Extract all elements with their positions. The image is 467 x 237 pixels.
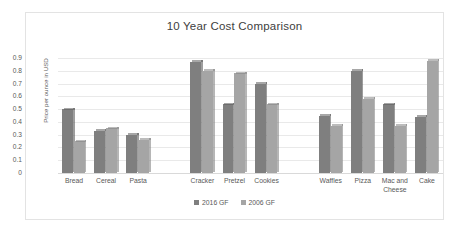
bar-2006-gf[interactable] — [234, 73, 245, 173]
bar-2006-gf[interactable] — [363, 99, 374, 173]
bar-top-shade — [128, 133, 139, 135]
bar-2016-gf[interactable] — [319, 116, 330, 174]
bar-side-shade — [374, 97, 376, 171]
bar-face — [202, 71, 213, 173]
bar-top-shade — [192, 60, 203, 62]
bar-2016-gf[interactable] — [126, 135, 137, 173]
bar-2016-gf[interactable] — [255, 84, 266, 173]
bar-group — [90, 58, 122, 173]
bar-top-shade — [396, 124, 407, 126]
bar-2016-gf[interactable] — [415, 117, 426, 173]
legend-item[interactable]: 2016 GF — [194, 199, 228, 206]
x-axis-category-label: Pasta — [114, 176, 162, 185]
bar-top-shade — [108, 127, 119, 129]
bar-face — [190, 62, 201, 173]
bar-side-shade — [117, 127, 119, 172]
bar-side-shade — [85, 140, 87, 172]
bar-top-shade — [236, 72, 247, 74]
bar-2016-gf[interactable] — [383, 104, 394, 173]
x-axis-category-label: Cookies — [242, 176, 290, 185]
bar-face — [395, 126, 406, 173]
y-axis-tick-label: 0.9 — [13, 55, 22, 62]
bar-2006-gf[interactable] — [202, 71, 213, 173]
legend-item[interactable]: 2006 GF — [241, 199, 275, 206]
bar-group — [411, 58, 443, 173]
chart-legend: 2016 GF2006 GF — [26, 199, 443, 206]
bar-series-group — [58, 58, 443, 173]
bar-face — [74, 141, 85, 173]
bar-face — [351, 71, 362, 173]
bar-top-shade — [417, 115, 428, 117]
bar-face — [138, 140, 149, 173]
y-axis-tick-label: 0.5 — [13, 106, 22, 113]
legend-swatch-icon — [194, 200, 199, 205]
bar-face — [126, 135, 137, 173]
bar-group — [122, 58, 154, 173]
y-axis-title: Price per ounce in USD — [42, 41, 49, 141]
bar-top-shade — [428, 59, 439, 61]
y-axis-tick-label: 0.8 — [13, 67, 22, 74]
bar-face — [363, 99, 374, 173]
x-axis-category-label: Cake — [403, 176, 451, 185]
y-axis-tick-label: 0 — [18, 170, 22, 177]
bar-face — [94, 131, 105, 173]
bar-2006-gf[interactable] — [395, 126, 406, 173]
bar-2006-gf[interactable] — [331, 126, 342, 173]
bar-group — [347, 58, 379, 173]
bar-top-shade — [224, 103, 235, 105]
bar-2006-gf[interactable] — [138, 140, 149, 173]
bar-group — [154, 58, 186, 173]
bar-face — [223, 104, 234, 173]
bar-top-shade — [384, 103, 395, 105]
y-axis-tick-label: 0.6 — [13, 93, 22, 100]
y-axis-tick-label: 0.4 — [13, 119, 22, 126]
bar-2016-gf[interactable] — [190, 62, 201, 173]
chart-container: 10 Year Cost Comparison Price per ounce … — [25, 12, 444, 220]
bar-face — [255, 84, 266, 173]
y-axis-tick-labels: 0.90.80.70.60.50.40.30.20.10 — [0, 58, 22, 173]
bar-face — [106, 128, 117, 173]
bar-group — [283, 58, 315, 173]
bar-2006-gf[interactable] — [106, 128, 117, 173]
bar-top-shade — [364, 97, 375, 99]
y-axis-tick-label: 0.2 — [13, 144, 22, 151]
bar-top-shade — [320, 114, 331, 116]
bar-face — [427, 61, 438, 173]
bar-side-shade — [406, 124, 408, 171]
bar-top-shade — [256, 82, 267, 84]
bar-top-shade — [64, 108, 75, 110]
bar-group — [58, 58, 90, 173]
bar-top-shade — [140, 138, 151, 140]
bar-top-shade — [352, 69, 363, 71]
bar-top-shade — [76, 140, 87, 142]
bar-top-shade — [332, 124, 343, 126]
bar-2016-gf[interactable] — [351, 71, 362, 173]
y-axis-tick-label: 0.3 — [13, 131, 22, 138]
legend-label: 2006 GF — [249, 199, 275, 206]
bar-group — [218, 58, 250, 173]
bar-side-shade — [245, 72, 247, 172]
bar-side-shade — [438, 59, 440, 171]
bar-side-shade — [213, 69, 215, 171]
legend-swatch-icon — [241, 200, 246, 205]
bar-2016-gf[interactable] — [94, 131, 105, 173]
bar-2016-gf[interactable] — [62, 109, 73, 173]
y-axis-tick-label: 0.7 — [13, 80, 22, 87]
bar-face — [383, 104, 394, 173]
bar-face — [331, 126, 342, 173]
bar-side-shade — [277, 103, 279, 172]
bar-2006-gf[interactable] — [267, 104, 278, 173]
legend-label: 2016 GF — [202, 199, 228, 206]
bar-side-shade — [149, 138, 151, 171]
bar-face — [62, 109, 73, 173]
bar-group — [379, 58, 411, 173]
bar-top-shade — [96, 129, 107, 131]
bar-face — [234, 73, 245, 173]
bar-2006-gf[interactable] — [427, 61, 438, 173]
y-axis-tick-label: 0.1 — [13, 157, 22, 164]
bar-2006-gf[interactable] — [74, 141, 85, 173]
bar-face — [267, 104, 278, 173]
bar-top-shade — [204, 69, 215, 71]
bar-side-shade — [342, 124, 344, 171]
bar-2016-gf[interactable] — [223, 104, 234, 173]
